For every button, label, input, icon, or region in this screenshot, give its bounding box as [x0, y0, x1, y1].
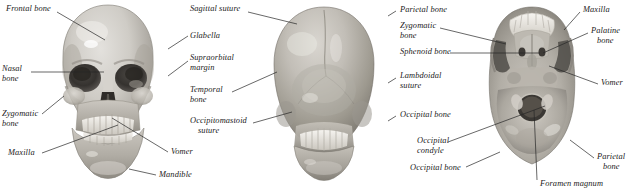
label-supraorbital-margin-line1: Supraorbital — [190, 53, 234, 62]
label-parietal-bone-left: Parietal bone — [400, 5, 447, 14]
label-zygomatic-bone-line2: bone — [2, 119, 19, 128]
label-zygomatic-bone-line1: Zygomatic — [2, 109, 38, 118]
label-lambdoidal-suture-line2: suture — [400, 81, 421, 90]
label-foramen-magnum: Foramen magnum — [540, 179, 603, 188]
label-nasal-bone-line2: bone — [2, 74, 19, 83]
label-occipital-bone-lower: Occipital bone — [410, 163, 461, 172]
label-parietal-bone-right-line1: Parietal — [597, 152, 625, 161]
label-supraorbital-margin-line2: margin — [190, 63, 215, 72]
label-palatine-bone-line1: Palatine — [591, 26, 620, 35]
label-nasal-bone-line1: Nasal — [2, 64, 22, 73]
label-vomer-base: Vomer — [601, 78, 623, 87]
posterior-skull-image — [270, 6, 378, 188]
label-sagittal-suture: Sagittal suture — [190, 4, 240, 13]
label-zygomatic-bone-base-line2: bone — [400, 31, 417, 40]
anterior-skull-image — [52, 4, 164, 190]
label-occipital-bone-upper: Occipital bone — [400, 110, 451, 119]
label-mandible: Mandible — [159, 170, 192, 179]
label-vomer-anterior: Vomer — [171, 147, 193, 156]
label-lambdoidal-suture-line1: Lambdoidal — [400, 71, 442, 80]
label-occipital-condyle-line1: Occipital — [417, 136, 449, 145]
label-maxilla-base: Maxilla — [583, 5, 610, 14]
label-zygomatic-bone-base-line1: Zygomatic — [400, 21, 436, 30]
label-occipitomastoid-suture-line1: Occipitomastoid — [190, 116, 247, 125]
label-occipitomastoid-suture-line2: suture — [198, 126, 219, 135]
label-temporal-bone-line1: Temporal — [190, 85, 223, 94]
inferior-skull-base-image — [484, 4, 580, 178]
label-occipital-condyle-line2: condyle — [417, 146, 444, 155]
label-parietal-bone-right-line2: bone — [603, 162, 620, 171]
label-frontal-bone: Frontal bone — [6, 4, 51, 13]
label-temporal-bone-line2: bone — [190, 95, 207, 104]
label-sphenoid-bone: Sphenoid bone — [400, 47, 451, 56]
label-glabella: Glabella — [190, 31, 220, 40]
label-palatine-bone-line2: bone — [597, 36, 614, 45]
label-maxilla: Maxilla — [8, 148, 35, 157]
skull-anatomy-figure: Frontal bone Nasal bone Zygomatic bone M… — [0, 0, 636, 194]
